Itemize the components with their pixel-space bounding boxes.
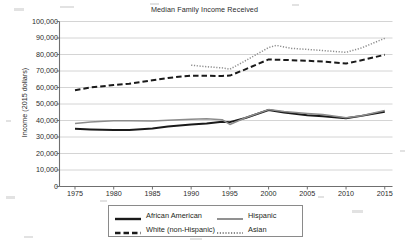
legend-label: Asian [248,225,267,234]
chart-legend: African AmericanWhite (non-Hispanic)Hisp… [108,205,303,237]
legend-item[interactable]: Hispanic [217,208,276,222]
scan-artifact [6,196,15,199]
scan-artifact [150,3,159,5]
legend-item[interactable]: African American [115,208,202,222]
scan-artifact [318,196,324,198]
scan-artifact [100,200,107,202]
legend-swatch-dotted-icon [217,224,243,234]
legend-item[interactable]: White (non-Hispanic) [115,222,215,236]
legend-swatch-dashed-icon [115,224,141,234]
scan-artifact [60,6,74,8]
chart-figure: Median Family Income Received Income (20… [0,0,409,245]
scan-artifact [400,150,405,152]
legend-swatch-solid-thick-icon [115,210,141,220]
legend-item[interactable]: Asian [217,222,267,236]
scan-artifact [190,238,202,240]
series-line-asian [191,38,385,69]
legend-swatch-solid-thin-icon [217,210,243,220]
legend-label: African American [146,211,202,220]
legend-label: White (non-Hispanic) [146,225,215,234]
scan-artifact [292,4,299,6]
scan-artifact [6,120,11,122]
scan-artifact [24,236,33,238]
scan-artifact [14,8,24,11]
legend-label: Hispanic [248,211,276,220]
series-line-white-non-hispanic [75,55,385,90]
scan-artifact [352,210,363,213]
